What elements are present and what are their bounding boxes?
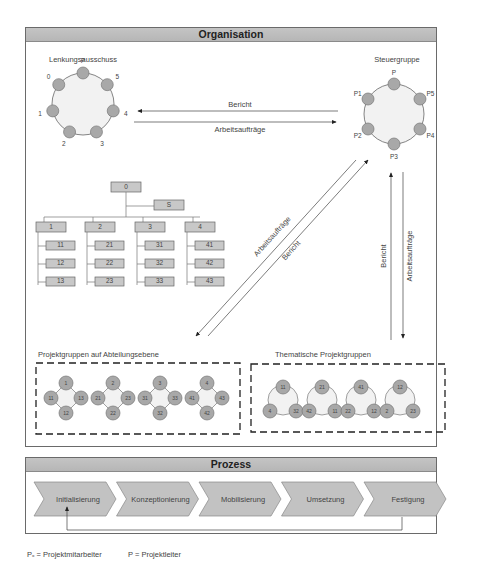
thematische-gruppe-member-label: 22: [345, 408, 351, 414]
bericht-vertical-label: Bericht: [379, 243, 388, 267]
lenkungsausschuss-member-label: 0: [47, 73, 51, 80]
abteilungsgruppe-member-label: 4: [206, 380, 209, 386]
steuergruppe-member-label: P: [392, 69, 396, 76]
abteilungsgruppe-member-label: 32: [157, 410, 163, 416]
arbeitsauftraege-label-top: Arbeitsaufträge: [215, 125, 266, 134]
abteilungsgruppe-member-label: 11: [48, 395, 53, 401]
org-unit-box-label: 42: [206, 259, 214, 266]
phase-label: Initialisierung: [56, 495, 100, 504]
org-department-box-label: 4: [198, 223, 202, 230]
lenkungsausschuss-member-label: 4: [124, 110, 128, 117]
org-department-box-label: 1: [49, 223, 53, 230]
lenkungsausschuss-member-node: [64, 126, 76, 138]
steuergruppe-member-label: P4: [426, 132, 434, 139]
org-department-box-label: 3: [148, 223, 152, 230]
lenkungsausschuss-member-node: [47, 105, 59, 117]
abteilungsgruppe-member-label: 33: [172, 395, 178, 401]
lenkungsausschuss-member-label: 2: [62, 140, 66, 147]
org-unit-box-label: 23: [106, 277, 114, 284]
phase-label: Umsetzung: [307, 495, 345, 504]
bericht-diagonal-label: Bericht: [280, 238, 303, 262]
lenkungsausschuss-member-label: 3: [100, 140, 104, 147]
org-root-box-label: 0: [124, 183, 128, 190]
abteilungsgruppe-member-label: 42: [204, 410, 210, 416]
thematische-gruppe-member-label: 11: [280, 384, 285, 390]
steuergruppe-member-node: [388, 78, 400, 90]
org-chart: 0S1111213221222333132334414243: [36, 182, 224, 286]
abteilungsgruppe-member-label: 23: [125, 395, 131, 401]
arbeitsauftraege-vertical-label: Arbeitsaufträge: [405, 231, 414, 282]
abteilungsgruppe-member-label: 1: [65, 380, 68, 386]
thematische-gruppe-member-label: 21: [319, 384, 325, 390]
thematische-gruppe-member-label: 4: [269, 408, 272, 414]
org-unit-box-label: 11: [57, 241, 64, 248]
thematische-gruppe-member-label: 32: [293, 408, 299, 414]
phase-label: Mobilisierung: [221, 495, 265, 504]
steuergruppe-member-node: [388, 138, 400, 150]
lenkungsausschuss-member-node: [77, 67, 89, 79]
thematische-gruppen-label: Thematische Projektgruppen: [275, 350, 371, 359]
steuergruppe-member-node: [414, 93, 426, 105]
abteilungsgruppe-member-label: 41: [189, 395, 195, 401]
thematische-gruppe-member-label: 12: [371, 408, 377, 414]
legend-px: Pₓ = Projektmitarbeiter: [27, 550, 102, 559]
thematische-gruppe-member-label: 42: [306, 408, 312, 414]
thematische-gruppen: Thematische Projektgruppen 1143221421141…: [251, 350, 445, 432]
org-unit-box-label: 41: [206, 241, 214, 248]
steuergruppe-member-node: [414, 123, 426, 135]
steuergruppe-member-label: P1: [354, 90, 362, 97]
org-unit-box-label: 21: [106, 241, 114, 248]
lenkungsausschuss-member-label: 1: [38, 110, 42, 117]
vertical-arrows: Bericht Arbeitsaufträge: [379, 172, 414, 340]
lenkungsausschuss-member-label: 5: [116, 73, 120, 80]
abteilungsgruppe-member-label: 13: [78, 395, 84, 401]
thematische-gruppe-member-label: 12: [397, 384, 403, 390]
org-unit-box-label: 13: [57, 277, 65, 284]
thematische-gruppe-member-label: 2: [386, 408, 389, 414]
org-unit-box-label: 43: [206, 277, 214, 284]
lenkungsausschuss-member-label: P: [81, 57, 85, 64]
legend-p: P = Projektleiter: [128, 550, 181, 559]
steuergruppe: Steuergruppe PP5P4P3P2P1: [354, 55, 435, 160]
bericht-label-top: Bericht: [228, 100, 252, 109]
abteilungsgruppe-member-label: 22: [110, 410, 116, 416]
org-unit-box-label: 32: [156, 259, 164, 266]
abteilungsgruppen-label: Projektgruppen auf Abteilungsebene: [38, 350, 159, 359]
phase-label: Konzeptionierung: [131, 495, 189, 504]
org-unit-box-label: 12: [57, 259, 65, 266]
abteilungsgruppe-member-label: 3: [159, 380, 162, 386]
horizontal-arrows: Bericht Arbeitsaufträge: [134, 100, 338, 134]
thematische-gruppe-member-label: 23: [410, 408, 416, 414]
process-chevrons: InitialisierungKonzeptionierungMobilisie…: [34, 482, 446, 516]
steuergruppe-member-label: P2: [354, 132, 362, 139]
org-staff-box-label: S: [167, 201, 172, 208]
org-unit-box-label: 22: [106, 259, 114, 266]
abteilungsgruppe-member-label: 21: [95, 395, 101, 401]
steuergruppe-label: Steuergruppe: [374, 55, 419, 64]
abteilungsgruppe-member-label: 2: [112, 380, 115, 386]
diagram-canvas: Lenkungsausschuss P543210 Steuergruppe P…: [0, 0, 482, 582]
phase-label: Festigung: [392, 495, 425, 504]
thematische-gruppe-member-label: 11: [332, 408, 337, 414]
abteilungsgruppen: Projektgruppen auf Abteilungsebene 11113…: [36, 350, 240, 434]
lenkungsausschuss: Lenkungsausschuss P543210: [38, 55, 128, 147]
abteilungsgruppe-member-label: 43: [219, 395, 225, 401]
lenkungsausschuss-member-node: [90, 126, 102, 138]
org-department-box-label: 2: [98, 223, 102, 230]
lenkungsausschuss-member-node: [107, 105, 119, 117]
steuergruppe-member-label: P5: [426, 90, 434, 97]
steuergruppe-member-node: [362, 93, 374, 105]
steuergruppe-member-label: P3: [390, 153, 398, 160]
lenkungsausschuss-member-node: [101, 79, 113, 91]
abteilungsgruppe-member-label: 12: [63, 410, 69, 416]
abteilungsgruppe-member-label: 31: [142, 395, 148, 401]
thematische-gruppe-member-label: 41: [358, 384, 364, 390]
org-unit-box-label: 31: [156, 241, 164, 248]
lenkungsausschuss-member-node: [53, 79, 65, 91]
steuergruppe-member-node: [362, 123, 374, 135]
org-unit-box-label: 33: [156, 277, 164, 284]
